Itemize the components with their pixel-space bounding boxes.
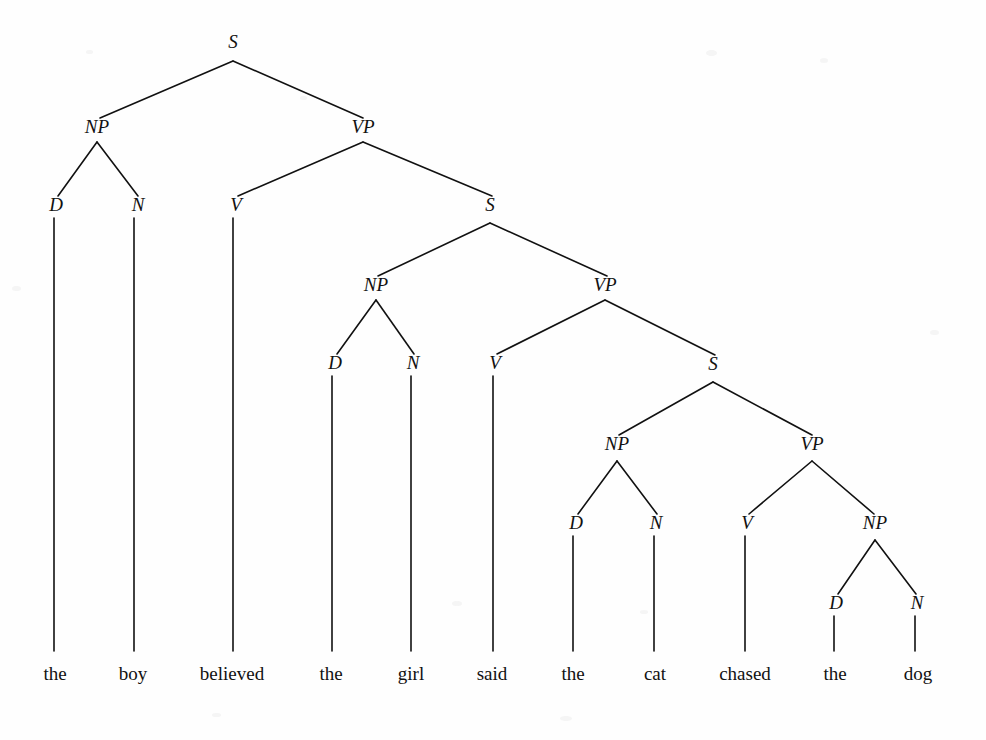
branch-line-layer bbox=[58, 61, 916, 594]
branch-NP4-to-N4 bbox=[875, 540, 916, 594]
node-label-np4: NP bbox=[862, 512, 888, 533]
node-label-v3: V bbox=[741, 512, 755, 533]
node-label-s1: S bbox=[228, 31, 238, 52]
scan-speck bbox=[640, 610, 648, 614]
node-label-n1: N bbox=[131, 194, 146, 215]
node-label-s3: S bbox=[708, 353, 718, 374]
scan-speck bbox=[930, 330, 939, 335]
node-label-d2: D bbox=[327, 352, 342, 373]
branch-NP4-to-D4 bbox=[838, 540, 875, 594]
syntax-tree-canvas: SNPVPDNVSNPVPDNVSNPVPDNVNPDN theboybelie… bbox=[0, 0, 986, 740]
node-label-np1: NP bbox=[84, 116, 110, 137]
branch-S1-to-VP1 bbox=[233, 61, 363, 118]
terminal-word-w5: girl bbox=[398, 663, 424, 684]
node-label-layer: SNPVPDNVSNPVPDNVSNPVPDNVNPDN bbox=[48, 31, 925, 613]
node-label-n3: N bbox=[649, 512, 664, 533]
branch-VP2-to-V2 bbox=[497, 300, 605, 354]
node-label-vp1: VP bbox=[351, 116, 375, 137]
scan-artifact-layer bbox=[12, 50, 939, 721]
terminal-word-layer: theboybelievedthegirlsaidthecatchasedthe… bbox=[43, 663, 932, 684]
branch-NP3-to-N3 bbox=[617, 461, 657, 514]
scan-speck bbox=[560, 716, 572, 721]
scan-speck bbox=[706, 50, 717, 56]
node-label-np3: NP bbox=[604, 433, 630, 454]
terminal-word-w7: the bbox=[561, 663, 584, 684]
branch-S3-to-NP3 bbox=[619, 382, 713, 435]
terminal-stem-layer bbox=[54, 218, 915, 651]
node-label-n4: N bbox=[910, 592, 925, 613]
branch-NP3-to-D3 bbox=[578, 461, 617, 514]
branch-VP1-to-S2 bbox=[363, 142, 492, 196]
node-label-v1: V bbox=[230, 194, 244, 215]
branch-VP3-to-NP4 bbox=[812, 461, 874, 514]
branch-NP2-to-N2 bbox=[376, 300, 414, 354]
scan-speck bbox=[86, 50, 93, 54]
node-label-np2: NP bbox=[363, 274, 389, 295]
node-label-vp2: VP bbox=[593, 274, 617, 295]
terminal-word-w6: said bbox=[477, 663, 508, 684]
terminal-word-w10: the bbox=[823, 663, 846, 684]
branch-VP3-to-V3 bbox=[749, 461, 812, 514]
terminal-word-w1: the bbox=[43, 663, 66, 684]
terminal-word-w9: chased bbox=[719, 663, 771, 684]
terminal-word-w4: the bbox=[319, 663, 342, 684]
node-label-d4: D bbox=[828, 592, 843, 613]
terminal-word-w8: cat bbox=[644, 663, 667, 684]
branch-VP1-to-V1 bbox=[238, 142, 363, 196]
node-label-d1: D bbox=[48, 194, 63, 215]
branch-NP1-to-D1 bbox=[58, 142, 97, 196]
branch-S2-to-NP2 bbox=[378, 223, 490, 276]
terminal-word-w2: boy bbox=[119, 663, 148, 684]
node-label-vp3: VP bbox=[800, 433, 824, 454]
node-label-v2: V bbox=[489, 352, 503, 373]
branch-NP1-to-N1 bbox=[97, 142, 138, 196]
terminal-word-w11: dog bbox=[904, 663, 933, 684]
scan-speck bbox=[300, 96, 307, 100]
scan-speck bbox=[820, 58, 828, 63]
branch-VP2-to-S3 bbox=[605, 300, 715, 355]
node-label-n2: N bbox=[406, 352, 421, 373]
scan-speck bbox=[452, 601, 462, 606]
scan-speck bbox=[212, 713, 221, 717]
scan-speck bbox=[12, 286, 21, 291]
branch-S1-to-NP1 bbox=[100, 61, 233, 118]
terminal-word-w3: believed bbox=[200, 663, 265, 684]
node-label-d3: D bbox=[568, 512, 583, 533]
branch-S2-to-VP2 bbox=[490, 223, 607, 276]
branch-S3-to-VP3 bbox=[713, 382, 812, 435]
syntax-tree-figure: SNPVPDNVSNPVPDNVSNPVPDNVNPDN theboybelie… bbox=[0, 0, 986, 740]
node-label-s2: S bbox=[485, 194, 495, 215]
branch-NP2-to-D2 bbox=[337, 300, 376, 354]
